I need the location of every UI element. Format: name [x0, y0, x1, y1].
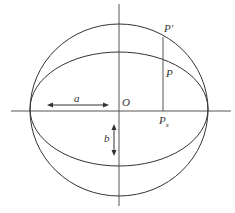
ellipse-diagram [0, 0, 235, 213]
label-point-circle: P' [164, 23, 173, 34]
label-semi-minor: b [104, 133, 110, 144]
label-foot-sub: x [166, 121, 169, 129]
label-semi-major: a [74, 93, 80, 104]
label-foot-base: P [159, 114, 166, 126]
label-origin: O [122, 97, 130, 108]
label-point-ellipse: P [166, 68, 173, 79]
label-foot-point: Px [159, 115, 169, 129]
semi-minor-arrow [112, 124, 117, 156]
